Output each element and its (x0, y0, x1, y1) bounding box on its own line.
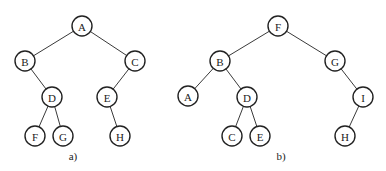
node-e: E (250, 126, 270, 146)
node-c: C (125, 51, 145, 71)
node-label: C (228, 131, 235, 143)
node-i: I (353, 87, 373, 107)
node-label: D (243, 92, 251, 104)
node-label: D (48, 92, 56, 104)
node-g: G (325, 51, 345, 71)
node-e: E (97, 87, 117, 107)
node-f: F (25, 126, 45, 146)
binary-trees-diagram: ABCDEFGH a) FBGADICEH b) (0, 0, 386, 171)
tree-b-caption: b) (276, 150, 286, 163)
tree-a-nodes: ABCDEFGH (15, 16, 145, 146)
node-label: A (78, 21, 86, 33)
tree-a-edges (25, 26, 135, 136)
node-h: H (110, 126, 130, 146)
tree-a: ABCDEFGH a) (15, 16, 145, 163)
node-label: C (131, 56, 138, 68)
node-label: F (275, 21, 281, 33)
node-label: F (32, 131, 38, 143)
node-label: I (361, 92, 365, 104)
node-label: H (116, 131, 124, 143)
node-a: A (72, 16, 92, 36)
node-b: B (210, 51, 230, 71)
node-c: C (222, 126, 242, 146)
node-label: A (184, 91, 192, 103)
node-g: G (53, 126, 73, 146)
node-d: D (42, 87, 62, 107)
tree-a-caption: a) (69, 150, 78, 163)
node-label: H (341, 131, 349, 143)
node-a: A (178, 86, 198, 106)
node-label: E (257, 131, 264, 143)
node-label: G (331, 56, 339, 68)
node-f: F (268, 16, 288, 36)
tree-b-nodes: FBGADICEH (178, 16, 373, 146)
node-h: H (335, 126, 355, 146)
node-label: G (59, 131, 67, 143)
node-d: D (237, 87, 257, 107)
node-b: B (15, 51, 35, 71)
tree-b: FBGADICEH b) (178, 16, 373, 163)
node-label: E (104, 92, 111, 104)
node-label: B (216, 56, 223, 68)
node-label: B (21, 56, 28, 68)
tree-b-edges (188, 26, 363, 136)
